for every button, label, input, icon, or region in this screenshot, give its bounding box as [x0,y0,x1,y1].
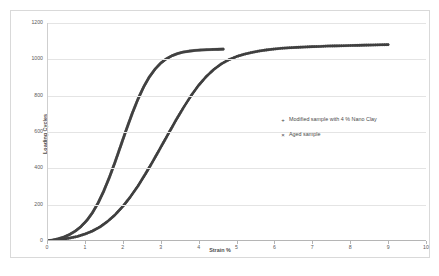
gridline [47,59,426,60]
y-axis-tick-label: 600 [34,129,43,134]
gridline [47,205,426,206]
series-line [47,49,223,241]
x-axis-tick-label: 8 [349,245,352,250]
series-group [47,43,390,241]
x-axis-tick-label: 0 [46,245,49,250]
y-axis-tick-label: 1000 [31,57,43,62]
x-axis-tick-mark [161,241,162,244]
x-axis-tick-mark [426,241,427,244]
gridline [47,168,426,169]
x-axis-tick-label: 7 [311,245,314,250]
legend: + Modified sample with 4 % Nano Clay × A… [279,112,377,142]
x-axis-tick-mark [312,241,313,244]
chart-container: Loading Cycles Strain % 0200400600800100… [10,10,430,258]
x-axis-tick-mark [237,241,238,244]
legend-item-label: Aged sample [289,132,320,137]
y-axis-tick-label: 1200 [31,20,43,25]
y-axis-tick-label: 400 [34,166,43,171]
cross-marker-icon: × [279,132,287,138]
plus-marker-icon: + [279,117,287,123]
x-axis-tick-label: 5 [235,245,238,250]
series-line [47,45,388,241]
x-axis-tick-label: 9 [387,245,390,250]
y-axis-tick-label: 800 [34,93,43,98]
legend-item-label: Modified sample with 4 % Nano Clay [289,117,377,122]
legend-item[interactable]: × Aged sample [279,127,377,142]
x-axis-tick-label: 4 [197,245,200,250]
x-axis-tick-mark [199,241,200,244]
x-axis-tick-label: 6 [273,245,276,250]
x-axis-tick-mark [85,241,86,244]
gridline [47,23,426,24]
x-axis-tick-mark [123,241,124,244]
x-axis-tick-label: 3 [159,245,162,250]
x-axis-title: Strain % [11,247,429,253]
legend-item[interactable]: + Modified sample with 4 % Nano Clay [279,112,377,127]
x-axis-tick-mark [47,241,48,244]
x-axis-tick-mark [350,241,351,244]
y-axis-tick-label: 200 [34,202,43,207]
y-axis-line [47,23,48,241]
x-axis-tick-label: 1 [83,245,86,250]
x-axis-tick-label: 10 [423,245,429,250]
y-axis-tick-label: 0 [40,238,43,243]
x-axis-tick-mark [274,241,275,244]
series-group [47,48,225,241]
x-axis-tick-mark [388,241,389,244]
x-axis-tick-label: 2 [121,245,124,250]
gridline [47,96,426,97]
